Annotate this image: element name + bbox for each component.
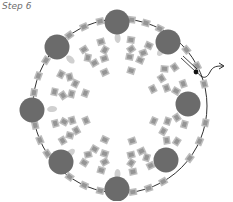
cube-bead — [141, 18, 151, 27]
cube-bead — [138, 48, 148, 57]
cube-bead — [128, 167, 137, 175]
cube-bead — [51, 119, 60, 129]
cube-bead — [96, 166, 106, 175]
cube-bead — [58, 90, 68, 101]
cube-bead — [100, 54, 110, 63]
large-round-bead — [45, 35, 70, 60]
cube-bead — [127, 136, 137, 145]
cube-bead — [195, 136, 205, 146]
cube-bead — [79, 44, 90, 54]
cube-bead — [83, 150, 92, 158]
cube-bead — [156, 73, 166, 84]
cube-bead — [142, 153, 151, 163]
large-round-bead — [49, 150, 74, 175]
beading-diagram — [0, 0, 233, 201]
cube-bead — [99, 157, 109, 167]
cube-bead — [158, 176, 168, 186]
cube-bead — [158, 126, 168, 136]
cube-bead — [100, 45, 110, 55]
cube-bead — [68, 116, 77, 126]
cube-bead — [35, 135, 45, 145]
cube-bead — [200, 79, 209, 88]
cube-bead — [96, 37, 106, 46]
cube-bead — [100, 67, 110, 77]
cube-bead — [79, 158, 90, 168]
cube-bead — [160, 65, 169, 73]
cube-bead — [162, 83, 171, 93]
cube-bead — [180, 120, 189, 130]
cube-bead — [65, 72, 74, 82]
cube-bead — [149, 116, 159, 126]
cube-bead — [79, 180, 89, 190]
cube-bead — [84, 53, 92, 62]
cube-bead — [201, 118, 209, 127]
thread-exit — [181, 56, 224, 77]
large-round-bead — [154, 148, 179, 173]
cube-bead — [126, 150, 135, 159]
cube-bead — [81, 115, 91, 125]
seed-bead — [47, 106, 57, 112]
cube-bead — [126, 36, 135, 44]
cube-bead — [126, 66, 136, 75]
cube-bead — [56, 69, 66, 79]
cube-bead — [34, 71, 43, 81]
cube-bead — [148, 84, 158, 94]
cube-bead — [128, 188, 137, 196]
cube-bead — [96, 186, 105, 195]
cube-bead — [30, 88, 38, 97]
cube-bead — [65, 131, 75, 140]
large-round-bead — [176, 92, 201, 117]
seed-bead — [65, 54, 76, 65]
large-round-bead — [156, 30, 181, 55]
cube-bead — [100, 149, 110, 158]
cube-bead — [67, 89, 76, 98]
large-round-bead — [105, 10, 130, 35]
cube-bead — [169, 62, 179, 73]
cube-bead — [125, 53, 134, 61]
cube-bead — [95, 17, 104, 26]
cube-bead — [185, 153, 195, 164]
cube-bead — [126, 158, 136, 169]
cube-bead — [100, 135, 110, 145]
cube-bead — [79, 22, 89, 32]
cube-bead — [144, 184, 154, 193]
cube-bead — [163, 136, 171, 145]
cube-bead — [126, 44, 137, 54]
cube-bead — [81, 88, 90, 98]
cube-bead — [172, 136, 182, 146]
large-round-bead — [105, 177, 130, 202]
cube-bead — [179, 79, 188, 89]
cube-bead — [50, 87, 59, 96]
large-round-bead — [20, 98, 45, 123]
knot-dot — [194, 70, 199, 75]
cube-bead — [163, 116, 172, 126]
large-beads — [20, 10, 201, 202]
cube-bead — [135, 55, 145, 65]
